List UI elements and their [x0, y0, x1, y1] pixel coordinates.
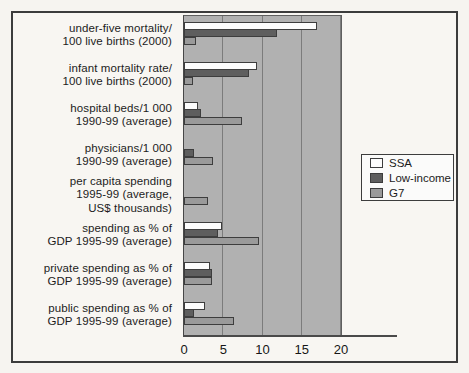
x-axis-tick-labels: 05101520 [0, 342, 469, 358]
category-label-1: infant mortality rate/ 100 live births (… [14, 55, 172, 95]
category-label-5: spending as % of GDP 1995-99 (average) [14, 215, 172, 255]
category-label-7: public spending as % of GDP 1995-99 (ave… [14, 295, 172, 335]
legend-item-ssa: SSA [370, 157, 453, 169]
legend-item-g7: G7 [370, 187, 453, 199]
x-tick-label-5: 5 [220, 342, 227, 357]
bar-g7-3 [184, 157, 213, 165]
g7-swatch-icon [370, 188, 383, 198]
legend: SSA Low-income G7 [361, 154, 454, 201]
category-label-2: hospital beds/1 000 1990-99 (average) [14, 95, 172, 135]
gridline-15 [301, 16, 302, 336]
category-label-3: physicians/1 000 1990-99 (average) [14, 135, 172, 175]
plot-area [183, 15, 342, 336]
gridline-10 [262, 16, 263, 336]
low-income-swatch-icon [370, 173, 383, 183]
x-tick-label-10: 10 [255, 342, 269, 357]
bar-low-income-1 [184, 69, 249, 77]
legend-label-ssa: SSA [389, 157, 412, 169]
bar-g7-5 [184, 237, 259, 245]
category-axis-labels: under-five mortality/ 100 live births (2… [14, 15, 172, 335]
bar-g7-1 [184, 77, 193, 85]
category-label-4: per capita spending 1995-99 (average, US… [14, 175, 172, 215]
x-tick-label-20: 20 [334, 342, 348, 357]
legend-label-low-income: Low-income [389, 172, 451, 184]
x-tick-label-0: 0 [180, 342, 187, 357]
ssa-swatch-icon [370, 158, 383, 168]
bar-g7-0 [184, 37, 196, 45]
x-tick-label-15: 15 [295, 342, 309, 357]
gridline-20 [340, 16, 341, 336]
x-axis-line [183, 335, 397, 337]
category-label-0: under-five mortality/ 100 live births (2… [14, 15, 172, 55]
legend-label-g7: G7 [389, 187, 404, 199]
bar-g7-7 [184, 317, 234, 325]
category-label-6: private spending as % of GDP 1995-99 (av… [14, 255, 172, 295]
bar-g7-2 [184, 117, 242, 125]
legend-item-low-income: Low-income [370, 172, 453, 184]
bar-low-income-0 [184, 29, 277, 37]
bar-g7-6 [184, 277, 212, 285]
bar-g7-4 [184, 197, 208, 205]
